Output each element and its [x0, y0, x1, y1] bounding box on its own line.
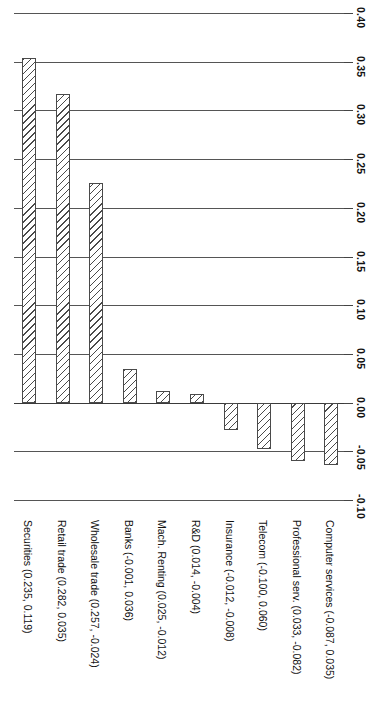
category-label: Securities (0.235, 0.119)	[21, 520, 35, 700]
plot-area: 0.400.350.300.250.200.150.100.050.00-0.0…	[0, 0, 389, 520]
axis-tick-label: 0.00	[355, 397, 367, 437]
axis-tick-mark	[344, 110, 353, 111]
axis-tick-mark	[344, 208, 353, 209]
category-axis-labels: Securities (0.235, 0.119)Retail trade (0…	[0, 520, 389, 704]
bar	[22, 58, 36, 403]
axis-tick-mark	[344, 159, 353, 160]
bar-chart-figure: 0.400.350.300.250.200.150.100.050.00-0.0…	[0, 0, 389, 704]
bar	[224, 403, 238, 430]
bar	[123, 369, 137, 403]
gridline	[14, 62, 346, 63]
axis-tick-label: 0.40	[355, 7, 367, 47]
axis-tick-label: 0.10	[355, 299, 367, 339]
category-label: Mach. Renting (0.025, -0.012)	[155, 520, 169, 700]
bar	[257, 403, 271, 450]
category-label: Wholesale trade (0.257, -0.024)	[88, 520, 102, 700]
axis-tick-mark	[344, 500, 353, 501]
axis-tick-mark	[344, 451, 353, 452]
axis-tick-mark	[344, 257, 353, 258]
category-label: R&D (0.014, -0.004)	[189, 520, 203, 700]
category-label: Insurance (-0.012, -0.008)	[223, 520, 237, 700]
bar	[156, 391, 170, 403]
axis-tick-label: 0.25	[355, 153, 367, 193]
axis-tick-mark	[344, 13, 353, 14]
axis-tick-label: 0.05	[355, 348, 367, 388]
axis-tick-mark	[344, 403, 353, 404]
axis-tick-label: -0.05	[355, 445, 367, 485]
bar	[56, 94, 70, 403]
bar	[89, 183, 103, 402]
gridline	[14, 500, 346, 501]
category-label: Banks (-0.001, 0.036)	[122, 520, 136, 700]
axis-tick-mark	[344, 354, 353, 355]
category-label: Retail trade (0.282, 0.035)	[55, 520, 69, 700]
category-label: Computer services (-0.087, 0.035)	[323, 520, 337, 700]
axis-tick-label: 0.30	[355, 104, 367, 144]
bar	[291, 403, 305, 461]
axis-tick-mark	[344, 62, 353, 63]
gridline	[14, 13, 346, 14]
category-label: Telecom (-0.100, 0.060)	[256, 520, 270, 700]
axis-tick-label: 0.35	[355, 56, 367, 96]
category-label: Professional serv. (0.033, -0.082)	[290, 520, 304, 700]
axis-tick-label: 0.20	[355, 202, 367, 242]
axis-tick-label: 0.15	[355, 251, 367, 291]
axis-tick-mark	[344, 305, 353, 306]
bar	[190, 394, 204, 403]
bar	[324, 403, 338, 465]
